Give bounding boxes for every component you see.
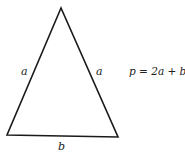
base-label: b (58, 141, 65, 152)
right-side-label: a (96, 66, 103, 77)
triangle-diagram (0, 0, 185, 156)
left-side-label: a (21, 66, 28, 77)
perimeter-formula: p = 2a + b (129, 66, 185, 77)
